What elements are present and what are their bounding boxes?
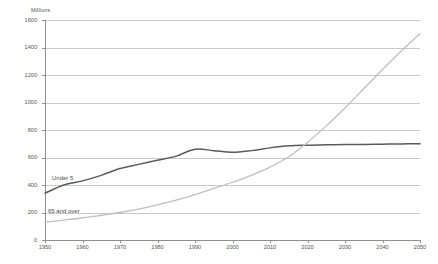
line-chart: Millions 02004006008001000120014001600 1… [0,0,438,264]
series-label-65-and-over: 65 and over [48,208,80,214]
series-line-65-and-over [45,34,420,222]
series-lines [0,0,438,264]
series-line-under-5 [45,144,420,194]
series-label-under-5: Under 5 [52,175,73,181]
